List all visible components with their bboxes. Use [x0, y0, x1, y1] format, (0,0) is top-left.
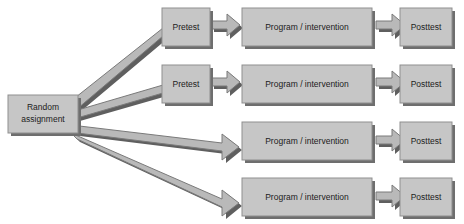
posttest-group4-label: Posttest [411, 192, 442, 202]
diagram-canvas: Random assignment Pretest Program / inte… [0, 0, 464, 224]
posttest-group3-label: Posttest [411, 136, 442, 146]
random-assignment-label-line1: Random [27, 102, 59, 112]
flow-diagram: Random assignment Pretest Program / inte… [0, 0, 464, 224]
pretest-group1-label: Pretest [173, 22, 201, 32]
node-program-group2[interactable]: Program / intervention [242, 65, 375, 106]
posttest-group1-label: Posttest [411, 22, 442, 32]
node-program-group4[interactable]: Program / intervention [242, 178, 375, 219]
arrow-random-to-group3 [71, 125, 239, 160]
pretest-group2-label: Pretest [173, 79, 201, 89]
node-posttest-group2[interactable]: Posttest [400, 65, 455, 106]
node-pretest-group1[interactable]: Pretest [162, 8, 213, 49]
program-group2-label: Program / intervention [265, 79, 349, 89]
node-posttest-group3[interactable]: Posttest [400, 122, 455, 163]
node-program-group3[interactable]: Program / intervention [242, 122, 375, 163]
program-group4-label: Program / intervention [265, 192, 349, 202]
node-program-group1[interactable]: Program / intervention [242, 8, 375, 49]
random-assignment-label-line2: assignment [21, 114, 65, 124]
node-random-assignment[interactable]: Random assignment [8, 95, 81, 136]
fan-arrow-shadows [74, 22, 242, 219]
node-posttest-group1[interactable]: Posttest [400, 8, 455, 49]
node-posttest-group4[interactable]: Posttest [400, 178, 455, 219]
program-group1-label: Program / intervention [265, 22, 349, 32]
posttest-group2-label: Posttest [411, 79, 442, 89]
program-group3-label: Program / intervention [265, 136, 349, 146]
node-pretest-group2[interactable]: Pretest [162, 65, 213, 106]
